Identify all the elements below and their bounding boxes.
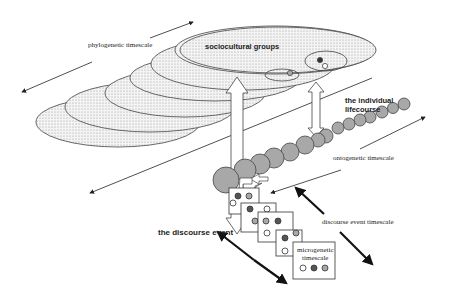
discourse-event-frames	[229, 188, 335, 279]
ontogenetic-arrow-down	[271, 170, 341, 193]
discourse-event-label: the discourse event	[158, 228, 233, 237]
timescales-diagram: phylogenetic timescale sociocultural gro…	[0, 0, 449, 298]
discourse-event-timescale-label: discourse event timescale	[322, 218, 394, 226]
microgenetic-line2: timescale	[297, 254, 334, 262]
individual-lifecourse-label: the individual lifecourse	[345, 96, 393, 114]
microgenetic-line1: microgenetic	[297, 246, 334, 254]
phylogenetic-timescale-label: phylogenetic timescale	[88, 41, 152, 49]
sociocultural-groups-label: sociocultural groups	[205, 42, 279, 51]
individual-lifecourse-line1: the individual	[345, 96, 393, 105]
group-individual-arrow	[308, 82, 324, 137]
ontogenetic-timescale-label: ontogenetic timescale	[333, 154, 394, 162]
individual-lifecourse-line2: lifecourse	[345, 105, 393, 114]
microgenetic-timescale-label: microgenetic timescale	[297, 246, 334, 262]
